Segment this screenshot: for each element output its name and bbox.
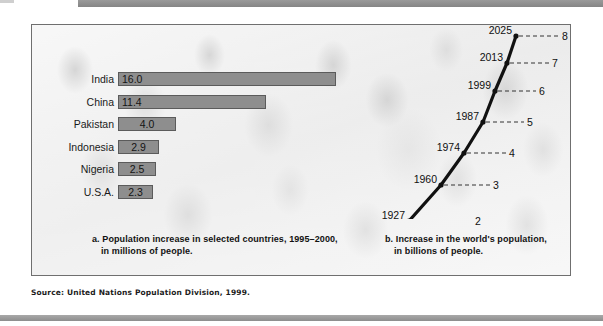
bar-chart-population-increase: India16.0China11.4Pakistan4.0Indonesia2.… [32,25,332,215]
bar-track: 2.5 [118,162,156,176]
line-chart-svg [344,33,571,219]
bar-label-indonesia: Indonesia [36,140,114,154]
data-point-marker [504,60,509,65]
bar-rect: 4.0 [118,117,176,131]
bar-row: India16.0 [32,72,332,86]
data-point-marker [492,88,497,93]
caption-b-line2: in billions of people. [385,246,571,258]
bar-value-label: 2.5 [130,163,145,175]
year-label-1974: 1974 [418,142,460,153]
source-note: Source: United Nations Population Divisi… [31,288,250,297]
bar-label-china: China [36,95,114,109]
value-label-6: 6 [539,86,545,97]
bar-value-label: 2.3 [128,186,143,198]
year-label-1987: 1987 [437,111,479,122]
bar-value-label: 4.0 [140,118,155,130]
value-label-3: 3 [493,180,499,191]
bar-rect: 2.9 [118,140,159,154]
value-label-5: 5 [527,117,533,128]
value-label-4: 4 [509,148,515,159]
page-rule-tick [0,0,14,3]
bar-label-nigeria: Nigeria [36,162,114,176]
bar-rect: 16.0 [118,72,336,86]
page-rule-bottom [0,315,603,321]
population-curve [409,36,516,219]
figure-panel: India16.0China11.4Pakistan4.0Indonesia2.… [31,24,571,276]
value-label-8: 8 [562,31,568,42]
data-point-marker [480,119,485,124]
bar-rect: 2.3 [118,185,153,199]
value-label-7: 7 [552,58,558,69]
bar-rect: 11.4 [118,95,266,109]
year-label-2025: 2025 [470,25,512,36]
data-point-marker [438,182,443,187]
bar-track: 2.3 [118,185,153,199]
bar-label-usa: U.S.A. [36,185,114,199]
bar-track: 4.0 [118,117,176,131]
caption-a-line2: in millions of people. [92,246,382,258]
year-label-1960: 1960 [395,174,437,185]
bar-value-label: 16.0 [122,73,142,85]
bar-label-india: India [36,72,114,86]
bar-label-pakistan: Pakistan [36,117,114,131]
caption-a: a. Population increase in selected count… [92,234,382,257]
caption-b: b. Increase in the world's population, i… [385,234,571,257]
bar-row: Nigeria2.5 [32,162,332,176]
bar-row: U.S.A.2.3 [32,185,332,199]
bar-rect: 2.5 [118,162,156,176]
bar-track: 16.0 [118,72,336,86]
bar-value-label: 11.4 [122,96,142,108]
value-label-2: 2 [475,216,481,227]
bar-row: Pakistan4.0 [32,117,332,131]
line-chart-world-population: 19272196031974419875199962013720258 [344,33,571,219]
data-point-marker [513,33,518,38]
data-point-marker [461,150,466,155]
bar-track: 11.4 [118,95,266,109]
page-rule-top [78,0,603,7]
bar-row: China11.4 [32,95,332,109]
year-label-1927: 1927 [363,210,405,221]
bar-track: 2.9 [118,140,159,154]
year-label-2013: 2013 [461,52,503,63]
caption-a-line1: a. Population increase in selected count… [92,234,338,244]
bar-row: Indonesia2.9 [32,140,332,154]
caption-b-line1: b. Increase in the world's population, [385,234,547,244]
bar-value-label: 2.9 [131,141,146,153]
year-label-1999: 1999 [449,80,491,91]
